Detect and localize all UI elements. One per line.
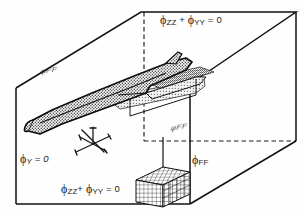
equals-zero-top: = 0 (205, 14, 222, 25)
structured-grid-mesh-cell (136, 137, 190, 207)
phi-sub-ff: FF (199, 158, 209, 167)
symmetry-plane-equation: ϕY = 0 (20, 151, 49, 166)
equals-zero-bottom: = 0 (103, 183, 120, 194)
phi-symbol-ff: ϕ (192, 153, 199, 167)
phi-sub-zz-bottom: ZZ (68, 187, 78, 196)
top-face-equation: ϕZZ + ϕYY = 0 (160, 12, 222, 27)
bottom-face-equation: ϕZZ+ ϕYY = 0 (61, 181, 120, 196)
equals-zero-sym: = 0 (32, 153, 49, 164)
phi-symbol-top: ϕ (160, 13, 167, 27)
phi-symbol-bottom: ϕ (61, 182, 68, 196)
coordinate-axes-star (75, 127, 111, 155)
phi-symbol-sym: ϕ (20, 152, 27, 166)
cfd-domain-figure: ϕZZ + ϕYY = 0 ϕZZ+ ϕYY = 0 ϕY = 0 ϕFF φF… (0, 0, 302, 215)
figure-canvas (0, 0, 302, 215)
plus-top: + (176, 14, 187, 25)
phi-sub-yy-top: YY (194, 18, 205, 27)
phi-sub-y: Y (27, 157, 32, 166)
plus-bottom: + (77, 183, 86, 194)
phi-sub-yy-bottom: YY (92, 187, 103, 196)
far-field-label-right: ϕFF (192, 152, 208, 167)
phi-sub-zz-top: ZZ (167, 18, 177, 27)
